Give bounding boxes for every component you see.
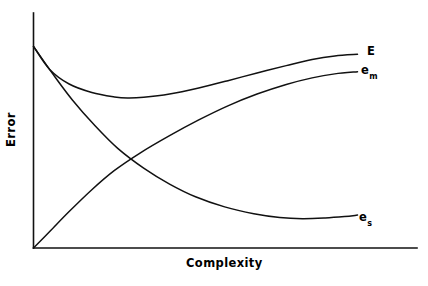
- chart-background: [0, 0, 428, 286]
- series-label-E-text: E: [367, 44, 375, 58]
- series-label-es-base: e: [359, 210, 367, 224]
- chart-plot-area: [0, 0, 428, 286]
- series-label-es: es: [359, 212, 372, 226]
- y-axis-label: Error: [6, 113, 18, 147]
- chart-figure: Error Complexity E em es: [0, 0, 428, 286]
- series-label-es-subscript: s: [367, 219, 372, 228]
- series-label-em-base: e: [361, 63, 369, 77]
- series-label-em-subscript: m: [369, 72, 378, 81]
- series-label-em: em: [361, 65, 378, 79]
- x-axis-label: Complexity: [186, 258, 263, 270]
- series-label-E: E: [367, 46, 375, 58]
